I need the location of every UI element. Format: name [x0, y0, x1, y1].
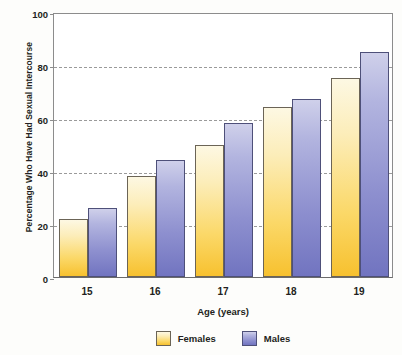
y-tick-mark	[50, 279, 54, 280]
x-axis-title: Age (years)	[53, 306, 393, 317]
legend-label-males: Males	[264, 333, 290, 344]
x-tick-label: 18	[285, 286, 296, 297]
plot-area: 020406080100	[53, 13, 393, 278]
bar-chart: Percentage Who Have Had Sexual Intercour…	[0, 0, 402, 355]
legend-swatch-females	[156, 331, 171, 346]
legend-label-females: Females	[178, 333, 216, 344]
y-axis-title: Percentage Who Have Had Sexual Intercour…	[24, 12, 34, 262]
x-tick-label: 15	[81, 286, 92, 297]
y-tick-label: 100	[32, 9, 48, 20]
y-tick-label: 40	[37, 168, 48, 179]
bar-group	[127, 14, 185, 277]
y-tick-label: 0	[43, 274, 48, 285]
bar-females-16	[127, 176, 156, 277]
bar-females-19	[331, 78, 360, 277]
bar-males-19	[360, 52, 389, 277]
bar-females-17	[195, 145, 224, 278]
bar-group	[59, 14, 117, 277]
bar-males-17	[224, 123, 253, 277]
bar-males-16	[156, 160, 185, 277]
x-tick-label: 19	[353, 286, 364, 297]
bar-group	[195, 14, 253, 277]
y-tick-label: 80	[37, 62, 48, 73]
bar-males-15	[88, 208, 117, 277]
bar-group	[263, 14, 321, 277]
legend-item-males[interactable]: Males	[242, 331, 290, 346]
chart-legend: FemalesMales	[53, 331, 393, 346]
x-tick-label: 16	[149, 286, 160, 297]
bars-layer	[54, 14, 392, 277]
legend-item-females[interactable]: Females	[156, 331, 216, 346]
legend-swatch-males	[242, 331, 257, 346]
bar-females-15	[59, 219, 88, 277]
bar-females-18	[263, 107, 292, 277]
y-tick-label: 60	[37, 115, 48, 126]
y-tick-label: 20	[37, 221, 48, 232]
bar-males-18	[292, 99, 321, 277]
bar-group	[331, 14, 389, 277]
x-tick-label: 17	[217, 286, 228, 297]
